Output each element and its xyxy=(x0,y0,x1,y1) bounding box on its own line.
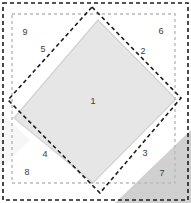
region-label-7: 7 xyxy=(159,168,164,178)
region-label-1: 1 xyxy=(90,96,95,106)
region-label-4: 4 xyxy=(42,149,47,159)
region-label-5: 5 xyxy=(40,44,45,54)
region-label-9: 9 xyxy=(22,27,27,37)
region-label-3: 3 xyxy=(142,148,147,158)
overlapping-regions-figure: 1 2 3 4 5 6 7 8 9 xyxy=(0,0,191,203)
region-label-6: 6 xyxy=(158,26,163,36)
region-label-8: 8 xyxy=(24,167,29,177)
figure-container: 1 2 3 4 5 6 7 8 9 xyxy=(0,0,191,203)
region-label-2: 2 xyxy=(140,46,145,56)
